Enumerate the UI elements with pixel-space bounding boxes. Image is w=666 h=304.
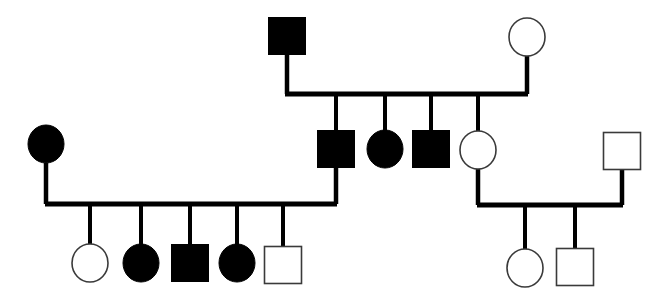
pedigree-symbol-male-unaffected (557, 249, 594, 286)
pedigree-symbol-female-affected (219, 244, 255, 282)
pedigree-symbol-male-affected (172, 245, 209, 282)
pedigree-symbol-female-unaffected (507, 249, 543, 287)
pedigree-symbol-female-unaffected (509, 18, 545, 56)
symbol-layer (28, 18, 641, 288)
pedigree-symbol-female-affected (123, 244, 159, 282)
pedigree-symbol-male-affected (413, 131, 450, 168)
pedigree-symbol-male-affected (269, 18, 306, 55)
pedigree-symbol-male-affected (318, 131, 355, 168)
pedigree-symbol-female-unaffected (72, 244, 108, 282)
pedigree-symbol-female-affected (367, 130, 403, 168)
pedigree-symbol-female-affected (28, 125, 64, 163)
pedigree-canvas (0, 0, 666, 304)
pedigree-symbol-male-unaffected (604, 133, 641, 170)
pedigree-chart (0, 0, 666, 304)
pedigree-symbol-female-unaffected (460, 131, 496, 169)
pedigree-symbol-male-unaffected (265, 247, 302, 284)
